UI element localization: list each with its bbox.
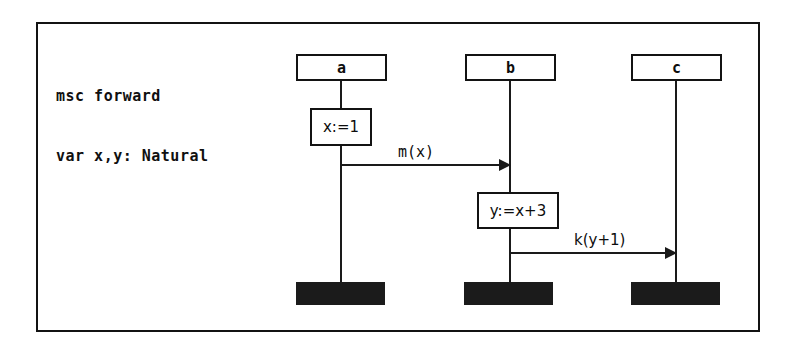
action-box-a-assign[interactable]: x:=1	[310, 108, 372, 146]
instance-head-c[interactable]: c	[631, 54, 722, 81]
message-label-k: k(y+1)	[574, 231, 625, 249]
arrowhead-icon-k	[665, 247, 677, 259]
arrowhead-icon-m	[499, 159, 511, 171]
instance-label-a: a	[337, 59, 346, 77]
instance-end-bar-a	[296, 282, 385, 305]
action-box-b-assign[interactable]: y:=x+3	[477, 192, 559, 229]
message-label-m: m(x)	[398, 143, 434, 161]
instance-head-a[interactable]: a	[296, 54, 387, 81]
msc-header-line-2: var x,y: Natural	[56, 146, 209, 166]
instance-head-b[interactable]: b	[465, 54, 556, 81]
message-arrow-k[interactable]	[510, 252, 676, 254]
action-label-b-assign: y:=x+3	[490, 202, 546, 220]
instance-end-bar-c	[631, 282, 720, 305]
msc-diagram-canvas: msc forward var x,y: Natural a x:=1 b y:…	[0, 0, 798, 352]
instance-end-bar-b	[464, 282, 553, 305]
instance-label-c: c	[672, 59, 681, 77]
action-label-a-assign: x:=1	[323, 118, 359, 136]
lifeline-b	[509, 81, 511, 285]
message-arrow-m[interactable]	[341, 164, 510, 166]
msc-header-text: msc forward var x,y: Natural	[56, 46, 209, 206]
msc-header-line-1: msc forward	[56, 86, 209, 106]
instance-label-b: b	[506, 59, 515, 77]
